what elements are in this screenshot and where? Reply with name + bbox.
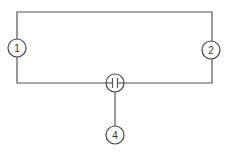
node-2: 2 xyxy=(202,41,220,59)
node-2-label: 2 xyxy=(208,45,214,56)
capacitor-icon xyxy=(106,74,124,92)
node-4: 4 xyxy=(106,126,124,144)
bottom-left-wire xyxy=(17,57,106,83)
circuit-diagram: 1 2 4 xyxy=(0,0,227,152)
node-1-label: 1 xyxy=(14,43,20,54)
bottom-right-wire xyxy=(124,59,212,83)
node-1: 1 xyxy=(8,39,26,57)
node-4-label: 4 xyxy=(112,130,118,141)
top-wire xyxy=(17,12,212,41)
